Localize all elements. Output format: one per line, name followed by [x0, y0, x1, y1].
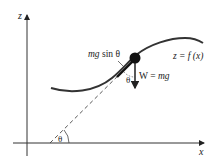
label-pointer [118, 61, 124, 67]
z-axis-label: z [17, 10, 22, 21]
angle-label-bottom: θ [58, 134, 62, 144]
angle-label-ball: θ [126, 75, 130, 85]
weight-label: W = mg [139, 71, 170, 81]
angle-arc-bottom [64, 130, 69, 143]
x-axis-label: x [198, 146, 204, 157]
bead-on-curve-diagram: z x θ θ mg sin θ W = mg z = f (x) [0, 0, 216, 166]
curve-label: z = f (x) [172, 51, 203, 62]
component-label: mg sin θ [88, 49, 120, 59]
component-label-rest: sin θ [100, 49, 121, 59]
bead-ball [130, 53, 141, 64]
